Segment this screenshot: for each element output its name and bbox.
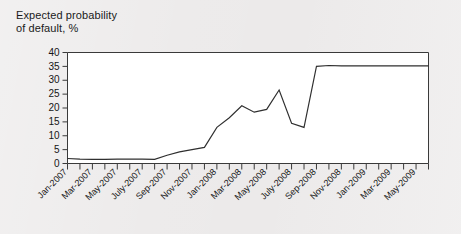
- y-axis-ticks: [63, 53, 68, 164]
- y-tick-label: 20: [48, 102, 60, 113]
- y-tick-label: 25: [48, 88, 60, 99]
- y-tick-label: 5: [54, 144, 60, 155]
- y-axis-labels: 0510152025303540: [48, 47, 60, 169]
- y-tick-label: 30: [48, 74, 60, 85]
- chart-figure: Expected probability of default, % Jan-2…: [0, 0, 461, 234]
- y-tick-label: 0: [54, 158, 60, 169]
- chart-plot-area: Jan-2007Mar-2007May-2007July-2007Sep-200…: [0, 0, 461, 234]
- chart-title: Expected probability of default, %: [16, 9, 186, 35]
- x-axis-ticks: [68, 164, 429, 170]
- y-tick-label: 35: [48, 61, 60, 72]
- y-tick-label: 40: [48, 47, 60, 58]
- y-tick-label: 10: [48, 130, 60, 141]
- plot-canvas: [68, 53, 429, 164]
- y-tick-label: 15: [48, 116, 60, 127]
- chart-svg: Jan-2007Mar-2007May-2007July-2007Sep-200…: [0, 0, 461, 234]
- plot-background: [68, 53, 429, 164]
- x-axis-labels: Jan-2007Mar-2007May-2007July-2007Sep-200…: [35, 167, 417, 202]
